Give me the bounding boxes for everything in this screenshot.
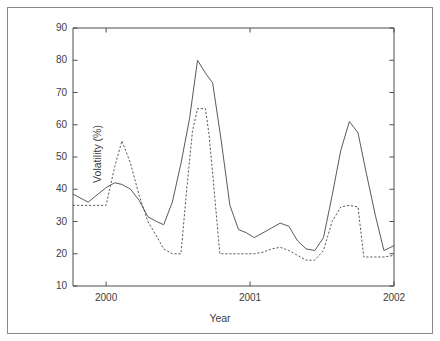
y-tick-label: 40: [37, 184, 67, 194]
y-tick-label: 60: [37, 120, 67, 130]
data-series-group: [73, 60, 394, 260]
y-tick-label: 20: [37, 249, 67, 259]
x-tick-label: 2002: [364, 293, 424, 303]
chart-svg: [73, 28, 394, 286]
y-tick-label: 70: [37, 88, 67, 98]
series-line-solid: [73, 60, 394, 250]
axes-group: [73, 28, 394, 286]
y-tick-label: 50: [37, 152, 67, 162]
axis-box-top-right: [73, 28, 394, 286]
x-tick-label: 2000: [76, 293, 136, 303]
axis-spines: [73, 28, 394, 286]
y-tick-label: 30: [37, 217, 67, 227]
y-tick-label: 10: [37, 281, 67, 291]
plot-area: 102030405060708090 200020012002 Volatili…: [73, 28, 394, 286]
y-tick-label: 90: [37, 23, 67, 33]
x-axis-label: Year: [0, 312, 440, 324]
x-tick-label: 2001: [220, 293, 280, 303]
y-tick-label: 80: [37, 55, 67, 65]
y-axis-label: Volatility (%): [91, 125, 103, 183]
figure-container: 102030405060708090 200020012002 Volatili…: [0, 0, 440, 341]
